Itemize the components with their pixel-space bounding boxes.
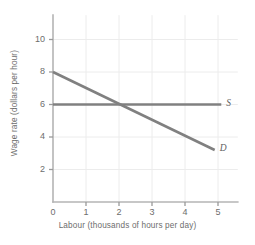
curve-label-d: D (220, 143, 227, 153)
x-tick-label: 3 (145, 207, 159, 217)
series-line-d (53, 72, 215, 150)
y-tick-label: 10 (29, 34, 45, 44)
x-tick-label: 2 (112, 207, 126, 217)
y-axis-label-container: Wage rate (dollars per hour) (10, 23, 24, 183)
x-axis-label: Labour (thousands of hours per day) (0, 221, 255, 230)
x-tick-label: 1 (79, 207, 93, 217)
x-tick-label: 5 (211, 207, 225, 217)
data-series-group (53, 72, 221, 150)
y-tick-label: 2 (29, 164, 45, 174)
x-tick-label: 4 (178, 207, 192, 217)
labour-market-chart: Wage rate (dollars per hour) Labour (tho… (0, 0, 255, 245)
curve-label-s: S (226, 98, 231, 108)
gridlines-group (53, 15, 238, 202)
x-tick-label: 0 (46, 207, 60, 217)
y-tick-label: 8 (29, 66, 45, 76)
y-axis-label: Wage rate (dollars per hour) (10, 23, 19, 183)
axes-group (53, 15, 238, 202)
axis-ticks-group (49, 40, 218, 207)
y-tick-label: 6 (29, 99, 45, 109)
y-tick-label: 4 (29, 131, 45, 141)
